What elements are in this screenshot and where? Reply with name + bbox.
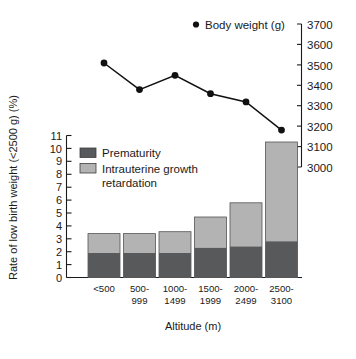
legend-swatch-prematurity (80, 148, 96, 158)
left-axis-tick-7: 7 (56, 181, 62, 193)
legend-label-iugr-line2: retardation (102, 177, 157, 189)
legend-swatch-iugr (80, 164, 96, 174)
right-axis-tick-3700: 3700 (307, 19, 333, 31)
x-tick-label-4-line1: 1500- (198, 283, 223, 294)
left-axis-tick-0: 0 (56, 272, 62, 284)
dot-marker-icon (193, 21, 199, 27)
bar-prematurity-5 (230, 247, 262, 278)
left-axis: 11 10 9 8 7 6 5 4 3 2 1 0 (50, 130, 72, 284)
right-axis-tick-3400: 3400 (307, 80, 333, 92)
right-axis-tick-3300: 3300 (307, 100, 333, 112)
data-point-5 (243, 99, 250, 106)
right-axis-tick-3600: 3600 (307, 39, 333, 51)
left-axis-tick-1: 1 (56, 259, 62, 271)
line-series-body-weight (101, 60, 285, 134)
left-axis-tick-6: 6 (56, 194, 62, 206)
x-tick-label-2-line2: 999 (131, 295, 147, 306)
data-point-6 (278, 127, 285, 134)
x-tick-label-6-line2: 3100 (271, 295, 292, 306)
bar-prematurity-6 (266, 241, 298, 277)
bar-prematurity-3 (159, 253, 191, 278)
right-axis-tick-3500: 3500 (307, 60, 333, 72)
x-tick-label-3-line1: 1000- (163, 283, 188, 294)
left-axis-tick-2: 2 (56, 246, 62, 258)
data-point-1 (101, 60, 108, 67)
left-axis-tick-8: 8 (56, 168, 62, 180)
chart-figure: Body weight (g) 3700 3600 3500 3400 3300… (0, 0, 356, 359)
left-axis-tick-3: 3 (56, 233, 62, 245)
x-axis-categories: <500 500- 999 1000- 1499 1500- 1999 2000… (93, 283, 294, 306)
legend-body-weight-label: Body weight (g) (205, 19, 285, 31)
x-axis-title: Altitude (m) (165, 320, 221, 332)
bar-prematurity-2 (124, 253, 156, 278)
x-tick-label-6-line1: 2500- (269, 283, 294, 294)
legend-bars: Prematurity Intrauterine growth retardat… (80, 147, 198, 189)
right-axis: 3700 3600 3500 3400 3300 3200 3100 3000 (297, 19, 333, 174)
x-tick-label-5-line1: 2000- (234, 283, 259, 294)
x-tick-label-2-line1: 500- (130, 283, 149, 294)
x-tick-label-3-line2: 1499 (164, 295, 185, 306)
data-point-4 (207, 90, 214, 97)
x-tick-label-1-line1: <500 (93, 283, 115, 294)
x-tick-label-5-line2: 2499 (235, 295, 256, 306)
left-axis-tick-5: 5 (56, 207, 62, 219)
data-point-3 (172, 72, 179, 79)
legend-label-iugr-line1: Intrauterine growth (102, 163, 198, 175)
left-axis-tick-11: 11 (51, 130, 62, 142)
left-axis-tick-10: 10 (50, 143, 62, 155)
right-axis-tick-3200: 3200 (307, 121, 333, 133)
left-axis-tick-9: 9 (56, 155, 62, 167)
left-axis-tick-4: 4 (56, 220, 62, 232)
right-axis-tick-3100: 3100 (307, 141, 333, 153)
legend-label-prematurity: Prematurity (102, 147, 161, 159)
bar-prematurity-1 (88, 253, 120, 278)
chart-svg: Body weight (g) 3700 3600 3500 3400 3300… (0, 0, 356, 359)
left-axis-title: Rate of low birth weight (<2500 g) (%) (7, 95, 19, 280)
bar-prematurity-4 (195, 248, 227, 278)
data-point-2 (136, 86, 143, 93)
legend-body-weight: Body weight (g) (193, 19, 285, 31)
x-tick-label-4-line2: 1999 (200, 295, 221, 306)
body-weight-line (104, 63, 282, 130)
right-axis-tick-3000: 3000 (307, 162, 333, 174)
